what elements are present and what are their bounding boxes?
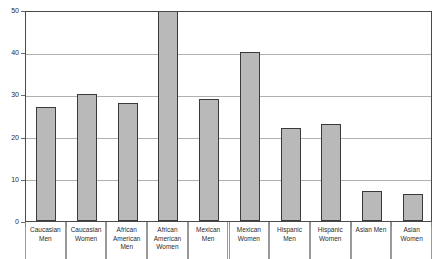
x-axis-category-label: Mexican Men	[189, 226, 228, 243]
bar	[199, 99, 219, 221]
bar	[158, 11, 178, 221]
y-axis-tick-mark	[21, 180, 25, 181]
x-axis-category-label: African American Women	[148, 226, 187, 252]
x-axis-category-cell: Hispanic Women	[310, 222, 351, 259]
x-axis-category-cell: African American Women	[147, 222, 188, 259]
x-axis-category-label: Caucasian Women	[67, 226, 106, 243]
x-axis-divider-tick	[66, 222, 67, 227]
x-axis-category-label: Hispanic Women	[311, 226, 350, 243]
bar	[403, 194, 423, 221]
x-axis-category-label: Mexican Women	[230, 226, 269, 243]
y-axis-tick-mark	[21, 95, 25, 96]
x-axis-category-label: Caucasian Men	[26, 226, 65, 243]
x-axis-category-cell: Mexican Women	[229, 222, 270, 259]
y-axis-tick-mark	[21, 222, 25, 223]
y-axis-tick-label: 0	[15, 218, 19, 226]
bar	[281, 128, 301, 221]
x-axis-divider-tick	[351, 222, 352, 227]
x-axis-category-cell: Caucasian Men	[25, 222, 66, 259]
plot-area	[25, 11, 432, 222]
x-axis-category-label: Hispanic Men	[270, 226, 309, 243]
y-axis-tick-mark	[21, 53, 25, 54]
y-axis-tick-label: 30	[11, 91, 19, 99]
x-axis-divider-tick	[229, 222, 230, 227]
y-axis-tick-mark	[21, 138, 25, 139]
y-axis-tick-label: 40	[11, 49, 19, 57]
bar	[362, 191, 382, 221]
x-axis-divider-tick	[269, 222, 270, 227]
x-axis-category-cell: Asian Men	[351, 222, 392, 259]
x-axis-divider-tick	[391, 222, 392, 227]
x-axis-divider-tick	[310, 222, 311, 227]
x-axis-category-label: Asian Men	[352, 226, 391, 235]
x-axis-category-table: Caucasian MenCaucasian WomenAfrican Amer…	[25, 222, 432, 259]
bar	[321, 124, 341, 221]
bar-chart: 01020304050 Caucasian MenCaucasian Women…	[0, 0, 446, 259]
y-axis-tick-label: 20	[11, 134, 19, 142]
y-axis-tick-label: 10	[11, 176, 19, 184]
x-axis-category-cell: Hispanic Men	[269, 222, 310, 259]
y-axis-tick-mark	[21, 11, 25, 12]
x-axis-divider-tick	[25, 222, 26, 227]
x-axis-category-cell: Asian Women	[391, 222, 432, 259]
bar	[240, 52, 260, 221]
x-axis-category-cell: Caucasian Women	[66, 222, 107, 259]
y-axis-tick-label: 50	[11, 7, 19, 15]
x-axis-divider-tick	[431, 222, 432, 227]
bar	[118, 103, 138, 221]
x-axis-divider-tick	[106, 222, 107, 227]
x-axis-category-cell: African American Men	[106, 222, 147, 259]
bars-layer	[26, 12, 431, 221]
y-axis-tick-labels: 01020304050	[0, 0, 23, 259]
bar	[77, 94, 97, 221]
bar	[36, 107, 56, 221]
x-axis-category-cell: Mexican Men	[188, 222, 229, 259]
x-axis-category-label: Asian Women	[392, 226, 431, 243]
x-axis-divider-tick	[147, 222, 148, 227]
x-axis-category-label: African American Men	[107, 226, 146, 252]
x-axis-divider-tick	[188, 222, 189, 227]
